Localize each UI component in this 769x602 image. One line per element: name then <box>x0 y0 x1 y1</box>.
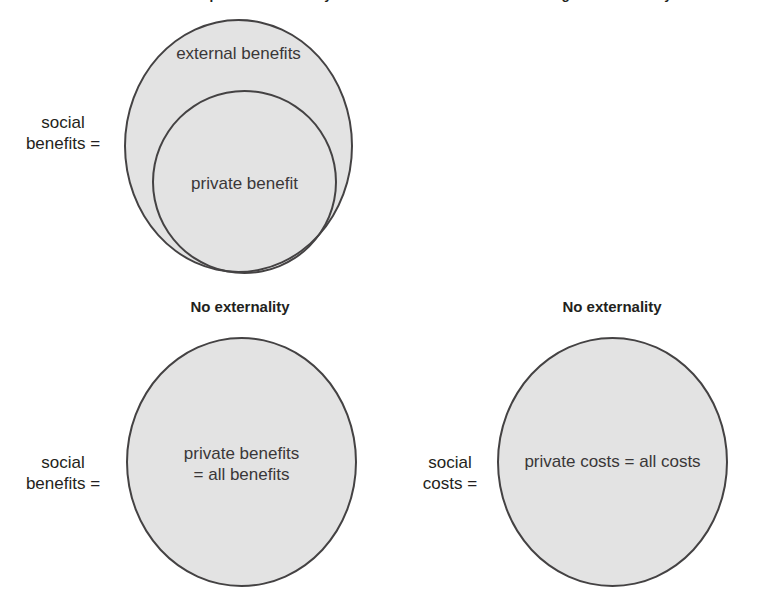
panel-costs-externality: social costs = external costs private co… <box>392 0 769 290</box>
social-costs-label-bottom-line2: costs = <box>402 473 498 494</box>
social-benefits-label-bottom-line2: benefits = <box>8 473 118 494</box>
social-costs-label-bottom: social costs = <box>402 452 498 495</box>
social-benefits-label-bottom: social benefits = <box>8 452 118 495</box>
social-costs-label-bottom-line1: social <box>402 452 498 473</box>
social-benefits-label: social benefits = <box>8 112 118 155</box>
social-benefits-label-bottom-line1: social <box>8 452 118 473</box>
all-benefits-text-line1: private benefits <box>126 444 357 465</box>
all-costs-text-line1: private costs = all costs <box>497 452 728 473</box>
no-externality-heading-benefits: No externality <box>124 298 356 315</box>
all-benefits-text: private benefits = all benefits <box>126 444 357 485</box>
panel-benefits-externality: social benefits = external benefits priv… <box>0 0 392 290</box>
all-costs-text: private costs = all costs <box>497 452 728 473</box>
external-benefits-text: external benefits <box>124 44 353 65</box>
private-benefit-text: private benefit <box>152 174 337 195</box>
all-benefits-text-line2: = all benefits <box>126 465 357 486</box>
externalities-venn-figure: Benefits: positive externality Costs: ne… <box>0 0 769 602</box>
no-externality-heading-costs: No externality <box>492 298 732 315</box>
social-benefits-label-line2: benefits = <box>8 133 118 154</box>
social-benefits-label-line1: social <box>8 112 118 133</box>
